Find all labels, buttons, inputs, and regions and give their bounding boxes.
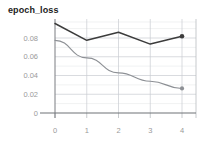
x-tick-label: 2: [116, 126, 120, 135]
series-endpoint-marker-epoch_loss: [180, 34, 185, 39]
y-tick-labels: 0.080.060.040.020: [23, 34, 38, 118]
x-tick-marks: [55, 113, 182, 118]
y-tick-label: 0.06: [23, 52, 38, 61]
plot-area: 0.080.060.040.020 01234: [0, 0, 214, 147]
x-tick-label: 4: [180, 126, 184, 135]
x-tick-label: 1: [85, 126, 89, 135]
x-tick-label: 0: [53, 126, 57, 135]
x-tick-labels: 01234: [53, 126, 184, 135]
chart-card: epoch_loss 0.080.060.040.020 01234: [0, 0, 214, 147]
line-chart-svg: 0.080.060.040.020 01234: [0, 0, 214, 147]
y-tick-label: 0.02: [23, 90, 38, 99]
y-tick-label: 0.08: [23, 34, 38, 43]
y-tick-label: 0.04: [23, 71, 38, 80]
y-tick-label: 0: [34, 109, 38, 118]
series-endpoint-marker-epoch_loss_smoothed: [180, 86, 184, 90]
x-tick-label: 3: [148, 126, 152, 135]
